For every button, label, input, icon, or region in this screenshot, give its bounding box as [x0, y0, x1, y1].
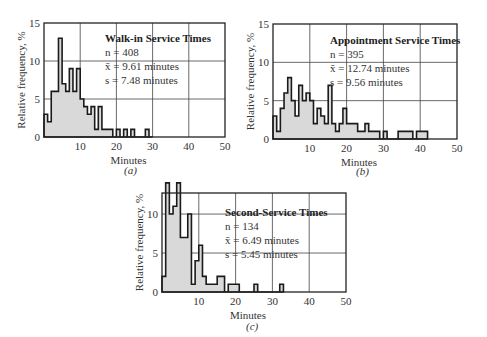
y-tick-label: 5 [153, 247, 159, 259]
y-tick-label: 0 [153, 286, 159, 298]
stat-sd-c: s = 5.45 minutes [225, 247, 328, 261]
histogram-second-service: 10203040500510MinutesRelative frequency,… [0, 0, 487, 337]
chart-c: 10203040500510MinutesRelative frequency,… [0, 0, 487, 337]
x-tick-label: 50 [341, 295, 353, 307]
x-tick-label: 10 [193, 295, 205, 307]
x-tick-label: 30 [267, 295, 279, 307]
x-tick-label: 40 [304, 295, 316, 307]
caption-c: (c) [246, 320, 258, 332]
chart-title-c: Second-Service Times [225, 206, 328, 218]
stats-box-c: Second-Service Times n = 134 x̄ = 6.49 m… [225, 205, 328, 261]
stat-mean-c: x̄ = 6.49 minutes [225, 233, 328, 247]
stat-n-c: n = 134 [225, 219, 328, 233]
y-axis-label: Relative frequency, % [133, 194, 145, 291]
x-tick-label: 20 [230, 295, 242, 307]
y-tick-label: 10 [147, 208, 159, 220]
